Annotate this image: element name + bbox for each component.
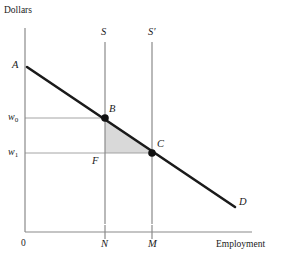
y-tick-w1-base: w	[8, 146, 15, 157]
point-a-label: A	[12, 60, 18, 71]
point-c-marker	[148, 149, 156, 157]
origin-label: 0	[21, 239, 26, 249]
y-tick-w1-subscript: 1	[15, 151, 19, 159]
x-tick-label-n: N	[101, 239, 108, 250]
y-tick-w0-base: w	[8, 111, 15, 122]
demand-curve-label: D	[239, 197, 247, 208]
supply-curve-s-label: S	[101, 27, 106, 38]
point-c-label: C	[157, 139, 164, 150]
figure-canvas	[0, 0, 287, 264]
point-b-label: B	[109, 104, 115, 115]
y-tick-label-w1: w1	[8, 147, 18, 157]
demand-curve	[27, 67, 235, 207]
y-tick-w0-subscript: 0	[15, 116, 19, 124]
y-axis-label: Dollars	[4, 6, 32, 16]
y-tick-label-w0: w0	[8, 112, 18, 122]
supply-demand-figure: Dollars Employment 0 w0 w1 N M S S′ A B …	[0, 0, 287, 264]
x-tick-label-m: M	[148, 239, 157, 250]
supply-curve-s-prime-label: S′	[148, 27, 156, 38]
point-b-marker	[101, 114, 109, 122]
supply-curve-s-prime-mark: ′	[153, 26, 155, 37]
point-f-label: F	[92, 156, 98, 167]
x-axis-label: Employment	[216, 240, 265, 250]
